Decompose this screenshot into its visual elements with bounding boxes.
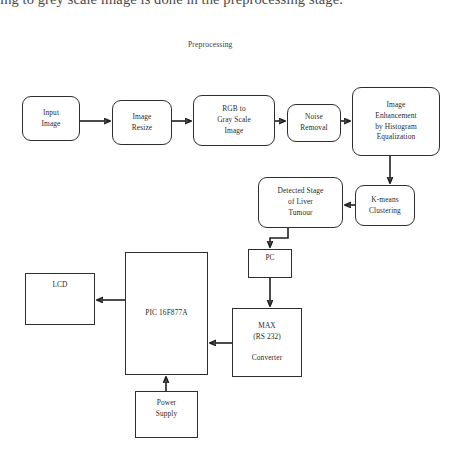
node-lcd-label: LCD [49, 280, 70, 291]
node-detected-stage[interactable]: Detected Stageof LiverTumour [258, 177, 343, 228]
node-pc-label: PC [262, 253, 277, 264]
edge-detected-to-pc [270, 228, 288, 247]
node-rgb-to-gray-label: RGB toGray ScaleImage [214, 104, 254, 136]
clipped-body-text: ing to grey scale image is done in the p… [0, 0, 452, 9]
node-power-supply-label: PowerSupply [153, 398, 181, 419]
node-kmeans-clustering[interactable]: K-meansClustering [355, 185, 415, 226]
node-power-supply[interactable]: PowerSupply [135, 391, 198, 438]
node-max-rs232-label: MAX(RS 232)Converter [249, 321, 285, 364]
node-image-enhancement[interactable]: ImageEnhancementby HistogramEqualization [352, 87, 440, 156]
node-lcd[interactable]: LCD [25, 273, 95, 325]
node-image-enhancement-label: ImageEnhancementby HistogramEqualization [372, 100, 420, 143]
node-detected-stage-label: Detected Stageof LiverTumour [275, 186, 327, 218]
preprocessing-section-label: Preprocessing [188, 40, 233, 49]
node-pc[interactable]: PC [248, 249, 292, 278]
node-noise-removal-label: NoiseRemoval [297, 112, 330, 133]
node-pic-mcu-label: PIC 16F877A [142, 308, 190, 319]
node-image-resize-label: ImageResize [129, 112, 155, 133]
node-input-image[interactable]: InputImage [22, 96, 80, 141]
node-rgb-to-gray[interactable]: RGB toGray ScaleImage [193, 95, 275, 146]
diagram-page: ing to grey scale image is done in the p… [0, 0, 452, 457]
node-max-rs232[interactable]: MAX(RS 232)Converter [232, 308, 302, 377]
node-input-image-label: InputImage [39, 108, 64, 129]
node-image-resize[interactable]: ImageResize [112, 100, 172, 145]
node-noise-removal[interactable]: NoiseRemoval [287, 104, 341, 142]
connector-layer [0, 0, 452, 457]
node-pic-mcu[interactable]: PIC 16F877A [125, 252, 208, 375]
node-kmeans-clustering-label: K-meansClustering [366, 195, 404, 216]
